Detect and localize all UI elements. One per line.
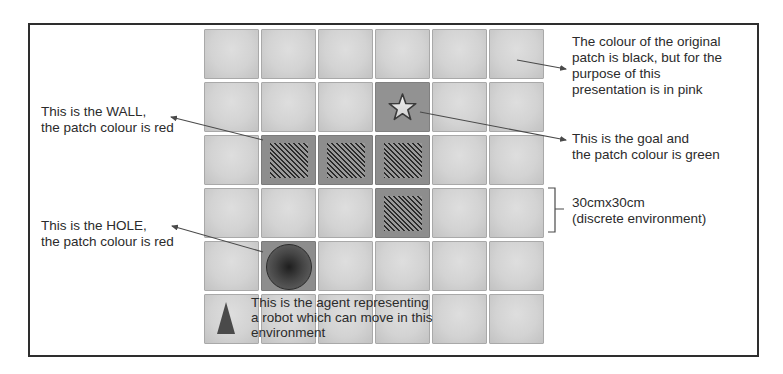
original-patch-label: The colour of the original patch is blac… xyxy=(572,34,722,98)
grid-cell xyxy=(204,241,259,291)
grid-cell xyxy=(261,188,316,238)
grid-cell-wall xyxy=(261,135,316,185)
grid-cell xyxy=(432,241,487,291)
grid-cell-original-patch xyxy=(489,29,544,79)
grid-cell-wall xyxy=(375,135,430,185)
grid-cell-goal xyxy=(375,82,430,132)
grid-cell xyxy=(432,135,487,185)
grid-cell xyxy=(432,82,487,132)
grid-cell-hole xyxy=(261,241,316,291)
grid-cell xyxy=(318,82,373,132)
cell-size-label-line2: (discrete environment) xyxy=(572,211,706,227)
hole-label-line1: This is the HOLE, xyxy=(41,218,174,234)
goal-label-line2: the patch colour is green xyxy=(572,147,720,163)
hatched-square-icon xyxy=(327,143,365,178)
grid-cell xyxy=(261,29,316,79)
wall-label-line2: the patch colour is red xyxy=(41,120,174,136)
wall-label: This is the WALL, the patch colour is re… xyxy=(41,104,174,136)
grid-cell-wall xyxy=(375,188,430,238)
grid-cell xyxy=(318,29,373,79)
grid-cell xyxy=(375,29,430,79)
original-patch-label-line3: purpose of this xyxy=(572,66,722,82)
grid-cell xyxy=(432,294,487,344)
agent-label-line2: a robot which can move in this xyxy=(251,310,433,325)
grid-cell-wall xyxy=(318,135,373,185)
goal-label: This is the goal and the patch colour is… xyxy=(572,131,720,163)
grid-cell xyxy=(204,135,259,185)
grid-cell xyxy=(489,135,544,185)
grid-cell xyxy=(489,294,544,344)
hatched-square-icon xyxy=(384,196,422,231)
grid-cell xyxy=(375,241,430,291)
hole-label: This is the HOLE, the patch colour is re… xyxy=(41,218,174,250)
hatched-square-icon xyxy=(384,143,422,178)
cell-size-label: 30cmx30cm (discrete environment) xyxy=(572,195,706,227)
grid-cell xyxy=(204,29,259,79)
grid-cell xyxy=(318,241,373,291)
grid-cell xyxy=(204,188,259,238)
agent-label-line3: environment xyxy=(251,325,433,340)
grid-cell xyxy=(489,241,544,291)
hatched-square-icon xyxy=(270,143,308,178)
grid-cell xyxy=(432,188,487,238)
cell-size-label-line1: 30cmx30cm xyxy=(572,195,706,211)
grid-cell xyxy=(432,29,487,79)
grid-cell xyxy=(489,82,544,132)
hole-label-line2: the patch colour is red xyxy=(41,234,174,250)
agent-label: This is the agent representing a robot w… xyxy=(251,295,433,340)
grid-cell xyxy=(261,82,316,132)
star-icon xyxy=(375,82,430,132)
dark-circle-icon xyxy=(266,244,312,290)
wall-label-line1: This is the WALL, xyxy=(41,104,174,120)
grid-cell xyxy=(204,82,259,132)
goal-label-line1: This is the goal and xyxy=(572,131,720,147)
grid-cell xyxy=(489,188,544,238)
agent-label-line1: This is the agent representing xyxy=(251,295,433,310)
original-patch-label-line1: The colour of the original xyxy=(572,34,722,50)
original-patch-label-line4: presentation is in pink xyxy=(572,82,722,98)
grid-cell xyxy=(318,188,373,238)
original-patch-label-line2: patch is black, but for the xyxy=(572,50,722,66)
